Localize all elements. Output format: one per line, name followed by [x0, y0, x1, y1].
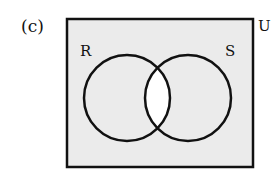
venn-diagram: [0, 0, 272, 171]
set-r-label: R: [80, 42, 91, 60]
set-s-label: S: [225, 42, 235, 60]
